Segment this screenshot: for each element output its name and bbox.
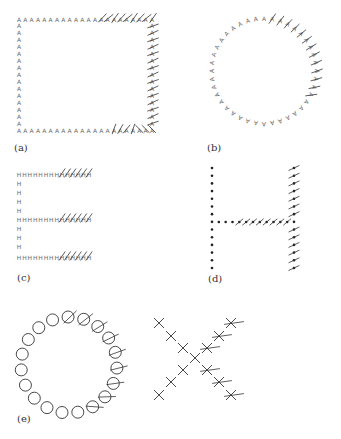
panel-b: AAAAAAAAAAAAAAAAAAAAAAAAAAAAAAAAAAAAAAAA xyxy=(208,14,323,128)
glyph-a-rotated: A xyxy=(223,29,231,37)
panel-e xyxy=(15,311,244,419)
glyph-a-rotated: A xyxy=(217,35,226,43)
orientation-segment xyxy=(212,335,232,338)
glyph-h: H xyxy=(38,216,43,223)
glyph-h: H xyxy=(17,198,22,205)
glyph-h: H xyxy=(17,171,22,178)
orientation-segment xyxy=(200,369,220,372)
glyph-a-rotated: A xyxy=(229,24,237,33)
glyph-a-rotated: A xyxy=(236,114,244,123)
glyph-a: A xyxy=(17,92,22,99)
glyph-a: A xyxy=(17,22,22,29)
orientation-segment xyxy=(224,394,244,397)
dot-glyph xyxy=(211,167,214,170)
circle-glyph xyxy=(22,334,34,346)
panel-label-d: (d) xyxy=(208,273,222,284)
figure-canvas: AAAAAAAAAAAAAAAAAAAAAAAAAAAAAAAAAAAAAAAA… xyxy=(0,0,341,439)
glyph-h: H xyxy=(17,234,22,241)
panel-label-e: (e) xyxy=(17,413,31,424)
dot-glyph xyxy=(211,267,214,270)
glyph-h: H xyxy=(22,254,27,261)
glyph-h: H xyxy=(54,254,59,261)
glyph-h: H xyxy=(54,171,59,178)
glyph-a: A xyxy=(80,16,85,23)
dot-glyph xyxy=(211,182,214,185)
glyph-h: H xyxy=(49,171,54,178)
glyph-a: A xyxy=(23,16,28,23)
glyph-a-rotated: A xyxy=(291,110,299,119)
glyph-a: A xyxy=(17,127,22,134)
orientation-segment xyxy=(103,334,119,342)
dot-glyph xyxy=(211,174,214,177)
glyph-h: H xyxy=(17,207,22,214)
orientation-segment xyxy=(289,189,300,194)
dot-glyph xyxy=(211,190,214,193)
glyph-a-rotated: A xyxy=(245,16,252,24)
glyph-a: A xyxy=(17,43,22,50)
orientation-segment xyxy=(110,366,127,370)
glyph-a-rotated: A xyxy=(213,43,222,51)
orientation-segment xyxy=(289,196,300,201)
dot-glyph xyxy=(211,259,214,262)
orientation-segment xyxy=(98,397,116,398)
glyph-h: H xyxy=(17,225,22,232)
glyph-a: A xyxy=(36,16,41,23)
glyph-a-rotated: A xyxy=(297,105,305,113)
orientation-segment xyxy=(86,406,104,407)
orientation-segment xyxy=(249,219,257,225)
glyph-h: H xyxy=(44,216,49,223)
orientation-segment xyxy=(64,311,77,324)
glyph-h: H xyxy=(17,216,22,223)
glyph-a: A xyxy=(106,127,111,134)
orientation-segment xyxy=(289,265,300,270)
orientation-segment xyxy=(256,219,264,225)
glyph-a: A xyxy=(17,120,22,127)
orientation-segment xyxy=(283,219,291,225)
glyph-h: H xyxy=(76,171,81,178)
glyph-h: H xyxy=(54,216,59,223)
glyph-a: A xyxy=(49,16,54,23)
glyph-h: H xyxy=(81,216,86,223)
glyph-a: A xyxy=(74,16,79,23)
panel-a: AAAAAAAAAAAAAAAAAAAAAAAAAAAAAAAAAAAAAAAA… xyxy=(17,13,159,134)
circle-glyph xyxy=(111,362,123,374)
glyph-a: A xyxy=(87,127,92,134)
glyph-a: A xyxy=(17,29,22,36)
circle-glyph xyxy=(16,348,28,360)
glyph-a-rotated: A xyxy=(222,104,230,112)
glyph-h: H xyxy=(87,171,92,178)
glyph-a-rotated: A xyxy=(228,109,236,118)
circle-glyph xyxy=(47,314,59,326)
glyph-a: A xyxy=(17,36,22,43)
glyph-a-rotated: A xyxy=(208,76,216,82)
panel-label-b: (b) xyxy=(207,142,221,153)
dot-glyph xyxy=(211,221,214,224)
glyph-a: A xyxy=(93,16,98,23)
glyph-h: H xyxy=(65,216,70,223)
glyph-a: A xyxy=(99,127,104,134)
circle-glyph xyxy=(109,346,121,358)
orientation-segment xyxy=(236,219,244,225)
glyph-h: H xyxy=(28,254,33,261)
glyph-a: A xyxy=(55,127,60,134)
glyph-a: A xyxy=(68,127,73,134)
circle-glyph xyxy=(19,379,31,391)
glyph-a-rotated: A xyxy=(237,19,245,28)
glyph-a: A xyxy=(17,85,22,92)
orientation-segment xyxy=(289,212,300,217)
glyph-a-rotated: A xyxy=(261,121,266,128)
dot-glyph xyxy=(231,221,234,224)
glyph-h: H xyxy=(49,216,54,223)
glyph-a: A xyxy=(30,127,35,134)
glyph-a-rotated: A xyxy=(212,91,221,99)
orientation-segment xyxy=(289,250,300,255)
glyph-h: H xyxy=(33,254,38,261)
glyph-h: H xyxy=(22,216,27,223)
orientation-segment xyxy=(212,381,232,384)
glyph-a: A xyxy=(61,16,66,23)
orientation-segment xyxy=(289,235,300,240)
glyph-a: A xyxy=(49,127,54,134)
orientation-segment xyxy=(289,181,300,186)
glyph-a: A xyxy=(23,127,28,134)
glyph-a: A xyxy=(17,57,22,64)
